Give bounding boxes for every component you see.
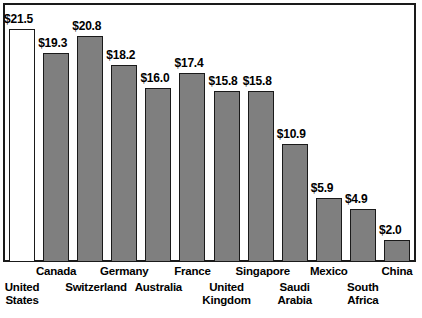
bar-value-label: $19.3 [38, 37, 67, 49]
bar-value-label: $4.9 [345, 193, 368, 205]
category-label: Switzerland [65, 281, 115, 294]
bar-value-label: $20.8 [72, 20, 101, 32]
category-label: Mexico [304, 265, 354, 278]
bar[interactable] [214, 91, 240, 262]
category-label: Australia [133, 281, 183, 294]
bar-group [9, 7, 35, 262]
bar-value-label: $16.0 [140, 72, 169, 84]
bar[interactable] [282, 144, 308, 262]
bar-group [179, 7, 205, 262]
bar-value-label: $18.2 [106, 49, 135, 61]
category-label: Canada [31, 265, 81, 278]
bar[interactable] [77, 36, 103, 262]
bar-group [316, 7, 342, 262]
bar[interactable] [43, 53, 69, 262]
bar-value-label: $2.0 [379, 224, 402, 236]
bar-value-label: $15.8 [209, 75, 238, 87]
bar-group [145, 7, 171, 262]
bar-group [214, 7, 240, 262]
bar[interactable] [9, 29, 35, 262]
bar[interactable] [248, 91, 274, 262]
category-label: France [167, 265, 217, 278]
bar[interactable] [384, 240, 410, 262]
category-label: South Africa [338, 281, 388, 306]
bar[interactable] [316, 198, 342, 262]
bar-group [248, 7, 274, 262]
category-label: Germany [99, 265, 149, 278]
category-label: Singapore [236, 265, 286, 278]
category-label: United Kingdom [202, 281, 252, 306]
bar-group [350, 7, 376, 262]
category-label: Saudi Arabia [270, 281, 320, 306]
bar[interactable] [179, 73, 205, 262]
bar-group [77, 7, 103, 262]
category-label: United States [0, 281, 47, 306]
category-label: China [372, 265, 422, 278]
bar[interactable] [111, 65, 137, 262]
bar-value-label: $17.4 [174, 57, 203, 69]
bar-value-label: $5.9 [311, 182, 334, 194]
chart-container: United StatesCanadaSwitzerlandGermanyAus… [0, 0, 422, 318]
bar-value-label: $15.8 [243, 75, 272, 87]
bar[interactable] [145, 88, 171, 262]
bar-value-label: $10.9 [277, 128, 306, 140]
bar[interactable] [350, 209, 376, 262]
bar-value-label: $21.5 [4, 13, 33, 25]
bar-group [111, 7, 137, 262]
